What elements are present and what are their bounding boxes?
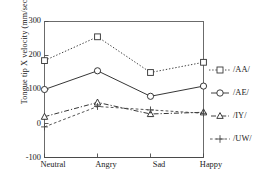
chart-legend: /AA/ /AE/ /IY/ bbox=[208, 58, 260, 150]
axis-tick-marks bbox=[45, 22, 204, 158]
legend-symbol-ae bbox=[208, 86, 232, 100]
legend-label-ae: /AE/ bbox=[232, 88, 249, 97]
legend-item-uw: /UW/ bbox=[208, 127, 260, 150]
x-tick-label-happy: Happy bbox=[181, 160, 241, 169]
legend-symbol-iy bbox=[208, 109, 232, 123]
legend-item-aa: /AA/ bbox=[208, 58, 260, 81]
legend-label-aa: /AA/ bbox=[232, 65, 250, 74]
x-tick-label-sad: Sad bbox=[129, 160, 189, 169]
legend-item-ae: /AE/ bbox=[208, 81, 260, 104]
legend-symbol-uw bbox=[208, 132, 232, 146]
data-series-group bbox=[41, 34, 207, 130]
legend-item-iy: /IY/ bbox=[208, 104, 260, 127]
legend-label-iy: /IY/ bbox=[232, 111, 247, 120]
legend-label-uw: /UW/ bbox=[232, 134, 252, 143]
x-tick-label-angry: Angry bbox=[76, 160, 136, 169]
legend-symbol-aa bbox=[208, 63, 232, 77]
chart-figure: Tongue tip X velocity (mm/sec) 300 200 1… bbox=[0, 0, 260, 189]
x-tick-label-neutral: Neutral bbox=[23, 160, 83, 169]
